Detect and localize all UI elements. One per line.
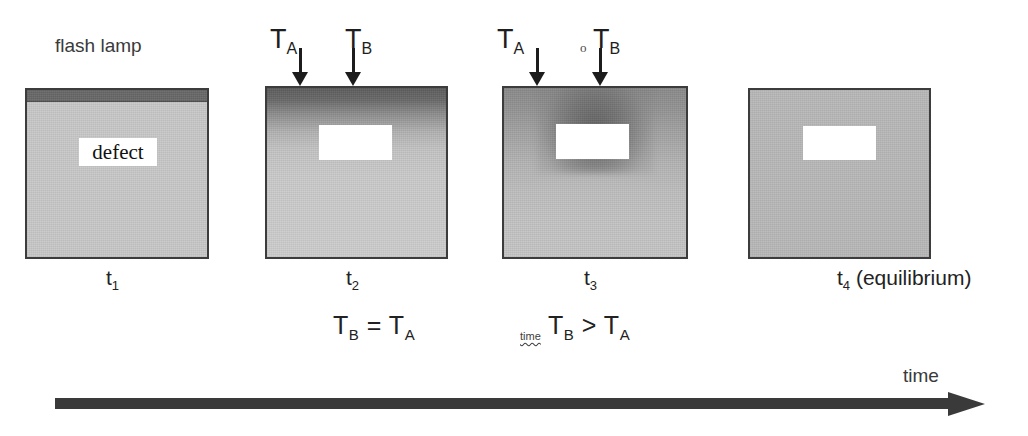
time-axis-label: time — [903, 366, 939, 385]
specimen-panel-t2 — [265, 86, 448, 259]
caption-t-index-1: B — [564, 326, 575, 343]
probe-label-ta-panel3: TA — [497, 26, 524, 57]
time-step-label-t2: t2 — [346, 267, 359, 292]
ta-letter: T — [270, 24, 287, 54]
t-index: 1 — [112, 278, 119, 293]
scan-artifact-time-label: time — [520, 330, 541, 342]
specimen-panel-t1: defect — [25, 88, 209, 259]
arrow-head-icon — [529, 72, 545, 86]
time-axis-arrow — [55, 392, 985, 416]
t-index: 3 — [590, 278, 597, 293]
ta-index: A — [514, 40, 525, 57]
tb-index: B — [362, 40, 373, 57]
caption-operator: > — [582, 311, 597, 339]
time-step-label-t3: t3 — [584, 267, 597, 292]
caption-temperature-relation-t2: TB = TA — [333, 313, 415, 342]
caption-t-index-2: A — [620, 326, 631, 343]
t-index: 4 — [843, 278, 850, 293]
defect-region-t3 — [556, 124, 629, 159]
caption-temperature-relation-t3: TB > TA — [548, 313, 630, 342]
specimen-panel-t3 — [502, 86, 688, 259]
t-suffix: (equilibrium) — [850, 266, 971, 289]
specimen-body-t4 — [750, 90, 929, 257]
caption-t-index-2: A — [405, 326, 416, 343]
probe-arrow-tb-panel3 — [592, 48, 608, 88]
arrow-shaft — [536, 48, 539, 74]
caption-t-letter-1: T — [548, 311, 564, 339]
defect-region-t4 — [803, 126, 876, 160]
specimen-body-t2 — [267, 88, 446, 257]
caption-t-index-1: B — [349, 326, 360, 343]
time-step-label-t4: t4 (equilibrium) — [837, 267, 971, 292]
arrow-head-icon — [592, 72, 608, 86]
arrow-head-icon — [292, 72, 308, 86]
caption-t-letter-2: T — [389, 311, 405, 339]
ta-letter: T — [497, 24, 514, 54]
specimen-body-t1 — [27, 90, 207, 257]
probe-arrow-tb-panel2 — [345, 48, 361, 88]
arrow-shaft — [599, 48, 602, 74]
flash-lamp-bar — [27, 90, 207, 102]
arrow-shaft — [299, 48, 302, 74]
thermography-diagram: flash lamp defect t1 TA TB t2 TB = TA TA — [0, 0, 1028, 436]
arrow-shaft — [352, 48, 355, 74]
tb-index: B — [610, 40, 621, 57]
axis-arrow-head-icon — [948, 392, 985, 416]
caption-operator: = — [367, 311, 382, 339]
time-step-label-t1: t1 — [106, 267, 119, 292]
specimen-panel-t4 — [748, 88, 931, 259]
flash-lamp-label: flash lamp — [55, 36, 142, 55]
axis-bar — [55, 398, 950, 409]
defect-region-t2 — [319, 125, 392, 160]
caption-t-letter-1: T — [333, 311, 349, 339]
defect-label-box: defect — [79, 138, 157, 166]
caption-t-letter-2: T — [604, 311, 620, 339]
probe-arrow-ta-panel2 — [292, 48, 308, 88]
t-index: 2 — [352, 278, 359, 293]
scan-artifact-o-icon: o — [580, 40, 587, 56]
probe-arrow-ta-panel3 — [529, 48, 545, 88]
arrow-head-icon — [345, 72, 361, 86]
